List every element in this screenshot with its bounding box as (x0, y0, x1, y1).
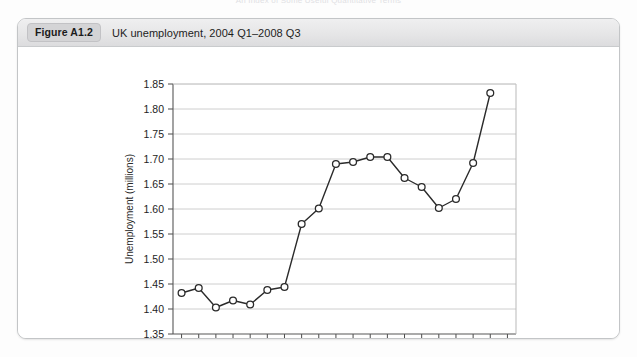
grid-lines (173, 84, 516, 309)
data-point-marker (178, 290, 185, 297)
data-point-marker (247, 301, 254, 308)
x-axis-ticks: 20042005200620072008 (169, 334, 507, 339)
data-point-marker (264, 287, 271, 294)
data-point-marker (315, 205, 322, 212)
document-page: An Index of Some Useful Quantitative Ter… (0, 0, 637, 357)
y-tick-label: 1.35 (144, 328, 165, 339)
figure-number-badge: Figure A1.2 (27, 23, 101, 42)
figure-body: 1.351.401.451.501.551.601.651.701.751.80… (18, 47, 619, 339)
data-series-line (182, 93, 491, 308)
data-point-marker (470, 160, 477, 167)
y-tick-label: 1.70 (144, 153, 165, 165)
series-path (182, 93, 491, 308)
y-tick-label: 1.60 (144, 203, 165, 215)
data-point-marker (281, 284, 288, 291)
y-axis-ticks: 1.351.401.451.501.551.601.651.701.751.80… (144, 78, 173, 339)
y-tick-label: 1.75 (144, 128, 165, 140)
data-point-marker (367, 154, 374, 161)
data-point-marker (435, 205, 442, 212)
data-point-marker (230, 297, 237, 304)
data-point-marker (212, 304, 219, 311)
y-tick-label: 1.85 (144, 78, 165, 90)
data-point-markers (178, 90, 494, 311)
y-tick-label: 1.55 (144, 228, 165, 240)
y-axis-label-text: Unemployment (millions) (124, 154, 135, 264)
y-tick-label: 1.80 (144, 103, 165, 115)
y-tick-label: 1.65 (144, 178, 165, 190)
unemployment-line-chart: 1.351.401.451.501.551.601.651.701.751.80… (18, 47, 620, 339)
data-point-marker (298, 221, 305, 228)
data-point-marker (384, 154, 391, 161)
data-point-marker (401, 175, 408, 182)
figure-caption: UK unemployment, 2004 Q1–2008 Q3 (112, 27, 301, 39)
figure-card: Figure A1.2 UK unemployment, 2004 Q1–200… (17, 18, 620, 339)
running-head: An Index of Some Useful Quantitative Ter… (0, 0, 637, 7)
y-tick-label: 1.45 (144, 278, 165, 290)
chart-svg: 1.351.401.451.501.551.601.651.701.751.80… (18, 47, 620, 339)
figure-header: Figure A1.2 UK unemployment, 2004 Q1–200… (18, 19, 619, 47)
data-point-marker (350, 159, 357, 166)
y-tick-label: 1.50 (144, 253, 165, 265)
data-point-marker (453, 196, 460, 203)
data-point-marker (195, 285, 202, 292)
y-axis-title: Unemployment (millions) (124, 154, 135, 264)
y-tick-label: 1.40 (144, 303, 165, 315)
data-point-marker (418, 184, 425, 191)
data-point-marker (333, 161, 340, 168)
data-point-marker (487, 90, 494, 97)
